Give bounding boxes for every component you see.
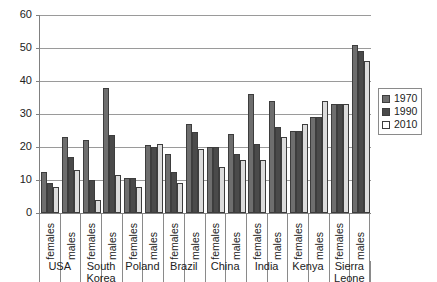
country-label: Brazil: [163, 261, 204, 273]
legend-item: 1990: [382, 105, 417, 118]
country-separator: [205, 261, 206, 275]
bar-group: [330, 15, 351, 213]
bar-cluster: [350, 15, 371, 213]
y-tick-label-60: 60: [2, 9, 32, 20]
legend: 197019902010: [378, 88, 422, 135]
y-tick-label-40: 40: [2, 75, 32, 86]
country-label: SierraLeone: [329, 261, 370, 282]
country-label: India: [246, 261, 287, 273]
plot-area: [39, 15, 371, 214]
bar: [302, 124, 308, 213]
bar: [343, 104, 349, 213]
legend-label: 1970: [394, 93, 417, 104]
country-label: Kenya: [287, 261, 328, 273]
bar-chart: 0102030405060 femalesmalesfemalesmalesfe…: [0, 0, 437, 282]
legend-swatch-icon: [382, 95, 390, 103]
y-tick-label-50: 50: [2, 42, 32, 53]
bar-cluster: [81, 15, 102, 213]
sex-label: females: [210, 216, 220, 260]
bar-cluster: [309, 15, 330, 213]
bar-cluster: [268, 15, 289, 213]
bar: [95, 200, 101, 213]
country-separator: [80, 261, 81, 282]
sex-label: males: [148, 216, 158, 260]
bar-cluster: [123, 15, 144, 213]
bar-cluster: [226, 15, 247, 213]
bar-cluster: [206, 15, 227, 213]
legend-item: 1970: [382, 92, 417, 105]
y-tick-label-30: 30: [2, 108, 32, 119]
sex-label: males: [272, 216, 282, 260]
legend-label: 2010: [394, 119, 417, 130]
y-tick-label-0: 0: [2, 207, 32, 218]
bar-cluster: [40, 15, 61, 213]
bar-group: [185, 15, 206, 213]
y-tick-label-20: 20: [2, 141, 32, 152]
country-separator: [163, 261, 164, 275]
sex-label: females: [45, 216, 55, 260]
bar-group: [61, 15, 82, 213]
country-separator: [287, 261, 288, 275]
bar-group: [206, 15, 227, 213]
bar: [219, 167, 225, 213]
country-label: USA: [39, 261, 80, 273]
sex-label: males: [355, 216, 365, 260]
bar: [157, 144, 163, 213]
country-separator: [370, 261, 371, 282]
bar-cluster: [288, 15, 309, 213]
sex-label: males: [107, 216, 117, 260]
bar-cluster: [102, 15, 123, 213]
bar: [136, 187, 142, 213]
sex-label: males: [314, 216, 324, 260]
bar-cluster: [61, 15, 82, 213]
bar-group: [102, 15, 123, 213]
sex-label: females: [169, 216, 179, 260]
sex-label: females: [86, 216, 96, 260]
bar-cluster: [185, 15, 206, 213]
bar: [364, 61, 370, 213]
bar-cluster: [247, 15, 268, 213]
bar: [198, 149, 204, 213]
sex-label: females: [252, 216, 262, 260]
legend-swatch-icon: [382, 108, 390, 116]
bar: [115, 175, 121, 213]
bar-group: [309, 15, 330, 213]
bar-group: [247, 15, 268, 213]
bar: [240, 160, 246, 213]
bar-group: [143, 15, 164, 213]
legend-label: 1990: [394, 106, 417, 117]
bar-group: [81, 15, 102, 213]
country-separator: [122, 261, 123, 275]
bar-group: [164, 15, 185, 213]
bar-cluster: [330, 15, 351, 213]
bar-group: [288, 15, 309, 213]
category-axis-country-row: USASouthKoreaPolandBrazilChinaIndiaKenya…: [39, 261, 370, 282]
bar-group: [268, 15, 289, 213]
bar: [74, 170, 80, 213]
y-tick-label-10: 10: [2, 174, 32, 185]
bar-group: [226, 15, 247, 213]
legend-swatch-icon: [382, 121, 390, 129]
bar: [281, 137, 287, 213]
country-separator: [39, 261, 40, 275]
bar: [322, 101, 328, 213]
bar: [260, 160, 266, 213]
bar-group: [123, 15, 144, 213]
legend-item: 2010: [382, 118, 417, 131]
sex-label: males: [66, 216, 76, 260]
sex-label: females: [334, 216, 344, 260]
bar-cluster: [143, 15, 164, 213]
country-separator: [246, 261, 247, 275]
bar-group: [40, 15, 61, 213]
sex-label: females: [293, 216, 303, 260]
sex-label: males: [231, 216, 241, 260]
bar-cluster: [164, 15, 185, 213]
sex-label: females: [128, 216, 138, 260]
country-label: SouthKorea: [80, 261, 121, 282]
country-separator: [329, 261, 330, 282]
bar-group: [350, 15, 371, 213]
bar: [53, 187, 59, 213]
country-label: Poland: [122, 261, 163, 273]
country-label: China: [205, 261, 246, 273]
bar: [177, 183, 183, 213]
